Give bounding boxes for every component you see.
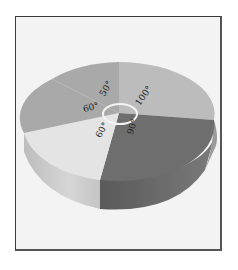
slice-100 — [119, 62, 215, 120]
pie-chart: 50° 60° 100° 60° 90° — [0, 0, 238, 270]
